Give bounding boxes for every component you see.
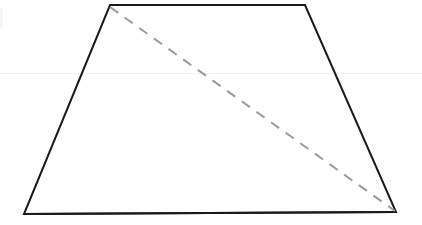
trapezoid-bottom-edge-highlight	[24, 212, 396, 214]
trapezoid-outline	[24, 5, 396, 214]
diagram-canvas	[0, 0, 422, 225]
dashed-diagonal-line	[110, 7, 395, 211]
trapezoid-figure	[0, 0, 422, 225]
